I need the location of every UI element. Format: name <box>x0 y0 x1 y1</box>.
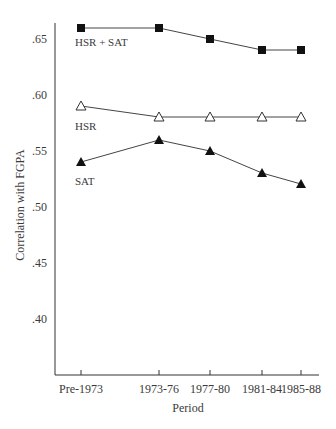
x-axis-title: Period <box>172 401 203 415</box>
x-tick-label: 1977-80 <box>190 382 230 396</box>
x-ticks <box>81 370 301 375</box>
line-chart: .65 .60 .55 .50 .45 .40 Pre-1973 1973-76… <box>0 0 336 429</box>
square-marker-icon <box>297 46 305 54</box>
x-tick-label: 1973-76 <box>139 382 179 396</box>
series-label-hsr-sat: HSR + SAT <box>75 36 128 48</box>
series-label-sat: SAT <box>75 175 95 187</box>
square-marker-icon <box>155 24 163 32</box>
triangle-marker-icon <box>154 135 164 144</box>
y-tick-label: .60 <box>32 88 47 102</box>
triangle-marker-icon <box>257 168 267 177</box>
series-label-hsr: HSR <box>75 120 97 132</box>
square-marker-icon <box>258 46 266 54</box>
x-tick-label: 1981-84 <box>242 382 282 396</box>
y-axis-title: Correlation with FGPA <box>13 149 27 261</box>
series-hsr <box>76 101 306 121</box>
y-tick-label: .55 <box>32 144 47 158</box>
y-tick-label: .50 <box>32 200 47 214</box>
y-tick-label: .40 <box>32 312 47 326</box>
y-tick-label: .45 <box>32 256 47 270</box>
square-marker-icon <box>77 24 85 32</box>
triangle-marker-icon <box>76 101 86 110</box>
square-marker-icon <box>206 35 214 43</box>
x-tick-label: 1985-88 <box>281 382 321 396</box>
x-tick-label: Pre-1973 <box>59 382 103 396</box>
series-sat <box>76 135 306 188</box>
y-tick-label: .65 <box>32 32 47 46</box>
